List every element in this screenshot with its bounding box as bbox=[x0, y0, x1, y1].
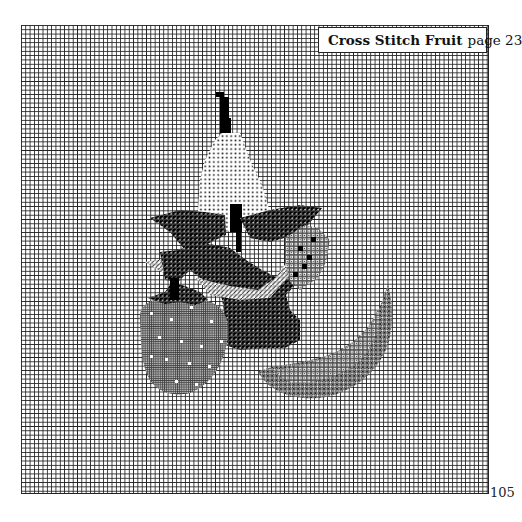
book-title: Cross Stitch Fruit bbox=[328, 32, 463, 48]
page-number: 105 bbox=[490, 485, 515, 500]
page-header-box: Cross Stitch Fruit page 23 bbox=[318, 27, 487, 53]
page-label: page 23 bbox=[468, 32, 522, 48]
grapes bbox=[285, 225, 330, 290]
